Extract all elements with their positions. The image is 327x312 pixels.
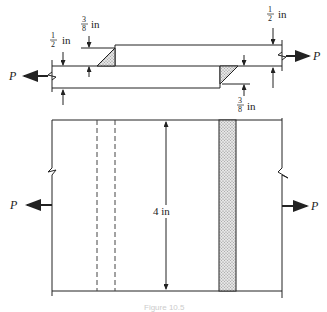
figure-caption: Figure 10.5 [144,303,185,312]
break-symbol-right-plan [278,168,288,178]
weld-strip-plan [219,120,236,291]
weld-right [220,66,238,84]
fraction-denominator: 2 [51,40,55,49]
fraction-denominator: 8 [238,105,242,114]
fraction-denominator: 8 [82,24,86,33]
unit-label: in [62,34,71,46]
fraction-numerator: 1 [51,31,55,40]
unit-label: in [91,18,100,30]
break-symbol-left-plan [48,168,56,175]
fraction-numerator: 3 [238,96,242,105]
weld-left [97,48,115,66]
dimension-width-label: 4 in [153,205,170,217]
fraction-numerator: 1 [268,5,272,14]
lap-joint-diagram: P P 1 2 in 3 8 in 1 2 in 3 8 in [0,0,327,312]
unit-label: in [247,100,256,112]
load-label-right-top: P [312,49,321,63]
fraction-denominator: 2 [268,14,272,23]
load-label-left-top: P [8,69,17,83]
unit-label: in [278,8,287,20]
fraction-numerator: 3 [82,15,86,24]
load-label-left-plan: P [9,198,18,212]
load-label-right-plan: P [310,199,319,213]
